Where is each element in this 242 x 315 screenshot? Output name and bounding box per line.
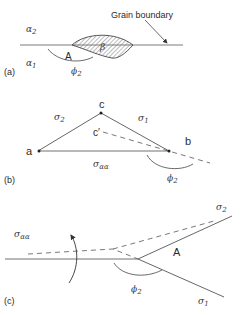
sigma-2-label-b: σ2 <box>54 112 65 124</box>
vertex-c-dot <box>100 112 103 115</box>
dashed-rotated-sigma-2 <box>113 221 214 249</box>
angle-arc-c <box>114 263 162 275</box>
sigma-aa-label-c: σαα <box>14 229 30 241</box>
vertex-b-dot <box>168 150 171 153</box>
panel-a-label: (a) <box>4 67 15 77</box>
panel-c-label: (c) <box>4 296 15 306</box>
vertex-c-prime-label: c′ <box>93 127 100 138</box>
sigma-1-label-c: σ1 <box>198 296 209 308</box>
alpha-2-label: α2 <box>26 24 37 36</box>
sigma-aa-label-b: σαα <box>93 159 109 171</box>
point-a-label: A <box>65 51 72 62</box>
phi-2-label-a: ϕ2 <box>71 66 82 78</box>
sigma-1-boundary <box>138 259 224 297</box>
angle-arc-b <box>147 155 193 169</box>
sigma-1-vector <box>101 113 169 151</box>
vertex-b-label: b <box>185 135 191 147</box>
sigma-2-label-c: σ2 <box>216 202 227 214</box>
beta-label: β <box>99 42 105 52</box>
triple-junction-figure: α2 α1 A β ϕ2 (a) Grain boundary a c c′ b… <box>0 0 242 315</box>
vertex-a-label: a <box>26 145 33 157</box>
vertex-a-dot <box>38 150 41 153</box>
alpha-1-label: α1 <box>26 58 37 70</box>
sigma-2-vector <box>38 113 101 151</box>
vertex-c-label: c <box>99 98 105 110</box>
point-a-label-c: A <box>173 246 181 258</box>
phi-2-label-c: ϕ2 <box>131 284 142 296</box>
grain-boundary-leader <box>145 20 167 43</box>
dashed-extension-c-prime <box>103 132 210 163</box>
sigma-1-label-b: σ1 <box>138 113 149 125</box>
phi-2-label-b: ϕ2 <box>167 173 178 185</box>
panel-b: a c c′ b σ2 σ1 σαα ϕ2 (b) <box>4 98 210 185</box>
grain-boundary-callout: Grain boundary <box>111 10 174 20</box>
panel-b-label: (b) <box>4 175 15 185</box>
panel-a: α2 α1 A β ϕ2 (a) Grain boundary <box>4 10 183 78</box>
dashed-rotated-boundary <box>28 249 138 259</box>
sigma-2-boundary <box>138 216 232 259</box>
panel-c: σαα A ϕ2 σ2 σ1 (c) <box>4 202 232 308</box>
